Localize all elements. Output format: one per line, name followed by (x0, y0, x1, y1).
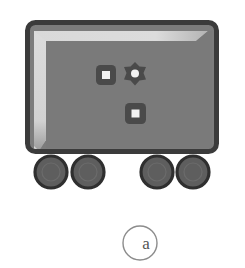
rounded-square-icon-lower[interactable] (125, 103, 146, 124)
wheel-rear-right (177, 156, 209, 188)
rounded-square-icon-left[interactable] (96, 65, 116, 85)
vehicle-body (28, 23, 217, 152)
body-highlight (34, 31, 212, 151)
figure-container: a (0, 0, 245, 268)
wheel-front-right (141, 156, 173, 188)
wheel-rear-left (72, 156, 104, 188)
wheel-front-left (35, 156, 67, 188)
highlight-left (34, 31, 46, 151)
body-inner-shadow (46, 31, 212, 148)
vehicle-schematic-figure: a (0, 0, 245, 268)
caption-letter: a (142, 234, 150, 253)
